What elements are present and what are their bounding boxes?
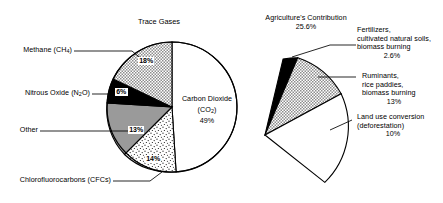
value-cfcs: 14% <box>145 155 161 163</box>
label-cfcs: Chlorofluorocarbons (CFCs) <box>0 176 111 184</box>
right-chart-total: 25.6% <box>253 23 359 31</box>
label-carbon-dioxide-formula: (CO2) <box>176 106 238 116</box>
leader-line-fertilizers <box>292 45 356 57</box>
label-carbon-dioxide: Carbon Dioxide <box>176 95 238 103</box>
figure-canvas: Trace Gases Methane (CH4) Nitrous Oxide … <box>0 0 443 203</box>
value-nitrous-oxide: 6% <box>115 88 128 96</box>
label-nitrous-oxide: Nitrous Oxide (N2O) <box>0 89 90 99</box>
label-other: Other <box>0 126 38 134</box>
leader-line-cfcs <box>113 172 162 181</box>
value-methane: 18% <box>138 57 154 65</box>
value-carbon-dioxide: 49% <box>176 117 238 125</box>
label-methane: Methane (CH4) <box>6 46 72 56</box>
value-land-use: 10% <box>357 130 429 138</box>
value-fertilizers: 2.6% <box>357 52 427 60</box>
left-chart-title: Trace Gases <box>138 17 180 26</box>
value-ruminants: 13% <box>362 98 426 106</box>
value-other: 13% <box>128 126 144 134</box>
